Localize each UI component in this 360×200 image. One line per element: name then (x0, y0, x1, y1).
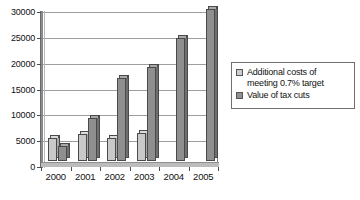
gridline (42, 12, 217, 13)
bar-face (176, 38, 185, 161)
bar-face (117, 78, 126, 161)
x-axis-tick (218, 167, 219, 171)
y-axis-tick (37, 141, 41, 142)
gridline (42, 64, 217, 65)
bar-side (215, 6, 218, 158)
legend-item-costs: Additional costs of meeting 0.7% target (236, 67, 350, 88)
bar-side (156, 64, 159, 158)
y-axis-tick (37, 115, 41, 116)
bar-face (206, 9, 215, 161)
bar-2002-costs (107, 138, 116, 161)
y-axis-label: 20000 (0, 60, 35, 69)
bar-2001-costs (78, 134, 87, 161)
gridline (42, 38, 217, 39)
y-axis-label: 5000 (0, 137, 35, 146)
y-axis-tick (37, 90, 41, 91)
gridline (42, 115, 217, 116)
bar-2005-tax-cuts (206, 9, 215, 161)
bar-2000-tax-cuts (58, 146, 67, 162)
plot-area (41, 12, 218, 167)
x-axis-label-2005: 2005 (186, 172, 220, 182)
y-axis-tick (37, 12, 41, 13)
x-axis-tick (71, 167, 72, 171)
bar-face (48, 138, 57, 161)
bar-2004-tax-cuts (176, 38, 185, 161)
bar-2003-tax-cuts (147, 67, 156, 161)
bar-2003-costs (137, 133, 146, 161)
bar-2001-tax-cuts (88, 118, 97, 161)
y-axis-label: 25000 (0, 34, 35, 43)
y-axis-line-inner (44, 11, 45, 168)
bar-2002-tax-cuts (117, 78, 126, 161)
y-axis-label: 10000 (0, 111, 35, 120)
bar-face (147, 67, 156, 161)
legend-label-tax-line1: Value of tax cuts (247, 90, 309, 100)
x-axis-tick (189, 167, 190, 171)
y-axis-label: 0 (0, 163, 35, 172)
bar-face (88, 118, 97, 161)
tax-swatch-icon (236, 92, 243, 99)
bar-2000-costs (48, 138, 57, 161)
chart-legend: Additional costs of meeting 0.7% target … (231, 62, 355, 109)
x-axis-tick (41, 167, 42, 171)
bar-chart: 050001000015000200002500030000 200020012… (0, 0, 360, 200)
bar-face (58, 146, 67, 162)
legend-label-costs-line2: meeting 0.7% target (247, 78, 324, 88)
legend-label-costs-line1: Additional costs of (247, 67, 316, 77)
costs-swatch-icon (236, 69, 243, 76)
x-axis-tick (130, 167, 131, 171)
bar-side (185, 35, 188, 158)
bar-face (137, 133, 146, 161)
y-axis-label: 30000 (0, 8, 35, 17)
x-axis-tick (159, 167, 160, 171)
y-axis-tick (37, 38, 41, 39)
x-axis-tick (100, 167, 101, 171)
legend-item-tax: Value of tax cuts (236, 90, 350, 101)
y-axis-label: 15000 (0, 86, 35, 95)
bar-face (78, 134, 87, 161)
gridline (42, 90, 217, 91)
y-axis-tick (37, 64, 41, 65)
bar-side (97, 115, 100, 158)
bar-side (126, 75, 129, 158)
bar-face (107, 138, 116, 161)
